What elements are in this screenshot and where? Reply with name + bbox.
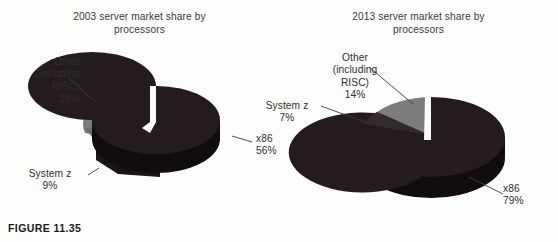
figure-caption: FIGURE 11.35 (8, 222, 81, 234)
figure-11-35: 2003 server market share by processors (0, 0, 558, 242)
slice-gap-2013 (424, 97, 431, 140)
slice-gap-2003-a (150, 86, 156, 122)
label-x86-2013: x86 79% (503, 183, 549, 208)
label-other-2003: Other (including RISC) 35% (8, 56, 80, 105)
label-other-2013: Other (including RISC) 14% (318, 52, 392, 101)
leader-line-x86-2003 (232, 136, 252, 142)
label-system-z-2013: System z 7% (256, 100, 318, 125)
label-system-z-2003: System z 9% (6, 168, 94, 193)
